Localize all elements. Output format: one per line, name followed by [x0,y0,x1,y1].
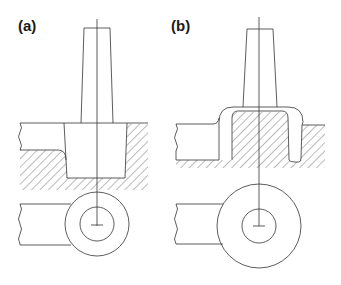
punch-b [243,29,277,107]
stock-left-edge-a [19,123,22,150]
groove-b [289,125,302,162]
cavity-left-wall-a [64,123,127,178]
panel-a [19,19,149,256]
stock-left-edge-b [175,124,178,160]
die-hatch-a [20,124,148,190]
arm-a [19,204,72,245]
arm-b [175,204,224,244]
stock-b [176,118,219,124]
panel-b [175,17,326,268]
forging-diagram [0,0,341,285]
